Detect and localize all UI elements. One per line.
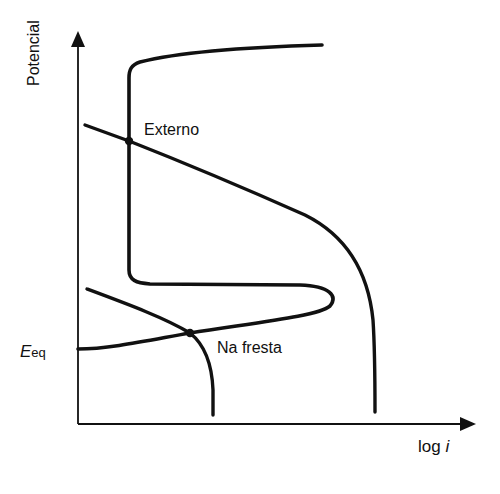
anodic-curve xyxy=(78,45,333,349)
eeq-subscript: eq xyxy=(31,345,45,360)
eeq-symbol: E xyxy=(20,342,31,361)
x-axis-label-var: i xyxy=(445,437,449,456)
axes xyxy=(71,31,476,431)
external-point-label: Externo xyxy=(144,122,199,138)
crevice-cathodic-curve xyxy=(87,289,213,415)
x-axis-arrow-icon xyxy=(460,417,476,431)
crevice-point-label: Na fresta xyxy=(217,340,282,356)
y-axis-arrow-icon xyxy=(71,31,85,47)
x-axis-label-prefix: log xyxy=(418,437,445,456)
external-intersection-point xyxy=(125,137,133,145)
equilibrium-potential-label: Eeq xyxy=(20,343,46,360)
y-axis-label: Potencial xyxy=(26,20,42,86)
polarization-diagram xyxy=(0,0,500,494)
crevice-intersection-point xyxy=(186,329,194,337)
x-axis-label: log i xyxy=(418,438,449,455)
